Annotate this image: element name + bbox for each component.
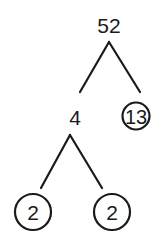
- node-2-right-label: 2: [106, 201, 118, 224]
- node-52: 52: [97, 14, 120, 37]
- node-2-right-circled: 2: [94, 194, 130, 230]
- node-13-label: 13: [125, 106, 147, 128]
- node-2-left-label: 2: [27, 201, 39, 224]
- edge-52-to-4: [80, 42, 109, 92]
- edge-52-to-13: [109, 42, 140, 92]
- factor-tree-diagram: 52 4 13 2 2: [0, 0, 167, 250]
- node-2-left-circled: 2: [15, 194, 51, 230]
- edge-4-to-2-left: [41, 135, 70, 188]
- node-13-circled: 13: [123, 103, 150, 130]
- edge-4-to-2-right: [70, 135, 102, 188]
- node-4: 4: [69, 106, 81, 129]
